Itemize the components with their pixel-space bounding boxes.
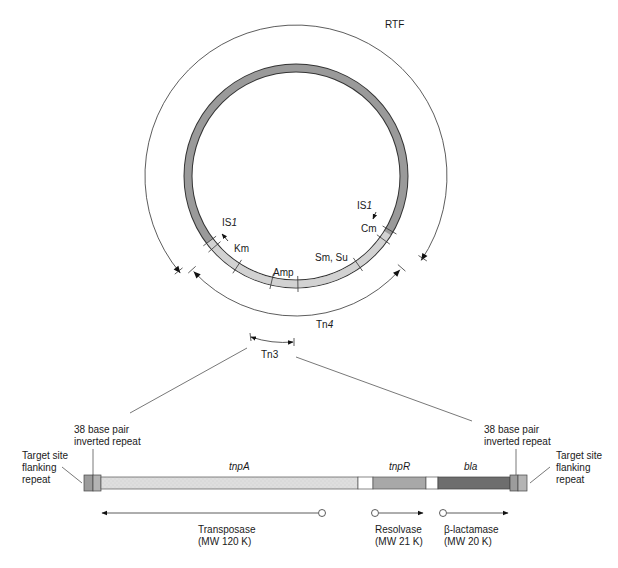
gene-tnpR-box [373,477,426,489]
right-inverted-repeat-box [510,475,518,491]
km-label: Km [234,243,249,254]
tnpA-promoter-icon [319,510,326,517]
right-flank-label-line2: flanking [556,462,590,473]
right-flank-label-line1: Target site [556,450,603,461]
bla-promoter-icon [440,510,447,517]
tn3-transposon-diagram: RTF IS1 Km Amp Sm, Su IS1 Cm Tn4 Tn3 [0,0,618,568]
tnpR-protein-label: Resolvase [375,524,422,535]
is1-right-arrow-icon [373,212,376,219]
tnpR-mw-label: (MW 21 K) [375,536,423,547]
spacer-box [358,477,373,489]
plasmid-ring [188,68,404,284]
left-flank-label-line3: repeat [22,474,51,485]
right-flank-label-line3: repeat [556,474,585,485]
plasmid-light-segment [210,233,388,284]
sm-su-label: Sm, Su [315,252,348,263]
left-flank-label-line2: flanking [22,462,56,473]
transposon-bar [84,475,527,491]
gene-tnpA-label: tnpA [229,461,250,472]
tn3-arc [251,337,293,342]
is1-left-arrow-icon [222,234,228,241]
right-inverted-repeat-label-line2: inverted repeat [484,436,551,447]
tn3-end-tick-left [250,333,251,341]
is1-right-label: IS1 [357,200,372,211]
amp-label: Amp [273,267,294,278]
gene-tnpA-box [101,477,358,489]
left-inverted-repeat-label-line1: 38 base pair [74,424,130,435]
expansion-line-left [130,348,247,413]
left-flank-pointer [62,467,82,483]
is1-left-label: IS1 [222,217,237,228]
bla-protein-label: β-lactamase [444,524,499,535]
rtf-label: RTF [385,19,404,30]
tn4-label: Tn4 [316,319,334,330]
right-inverted-repeat-label-line1: 38 base pair [484,424,540,435]
expansion-line-right [296,357,472,421]
gene-tnpR-label: tnpR [389,461,410,472]
left-flanking-repeat-box [84,475,93,491]
bla-mw-label: (MW 20 K) [444,536,492,547]
gene-bla-box [438,477,510,489]
tn3-label: Tn3 [261,349,279,360]
left-inverted-repeat-label-line2: inverted repeat [74,436,141,447]
gene-bla-label: bla [464,461,478,472]
cm-label: Cm [361,223,377,234]
right-flanking-repeat-box [518,475,527,491]
tnpA-protein-label: Transposase [198,524,256,535]
spacer-box-2 [426,477,438,489]
left-flank-label-line1: Target site [22,450,69,461]
tnpR-promoter-icon [372,510,379,517]
right-flank-pointer [530,467,550,483]
tnpA-mw-label: (MW 120 K) [198,536,251,547]
left-inverted-repeat-box [93,475,101,491]
tn4-arc [194,270,400,316]
